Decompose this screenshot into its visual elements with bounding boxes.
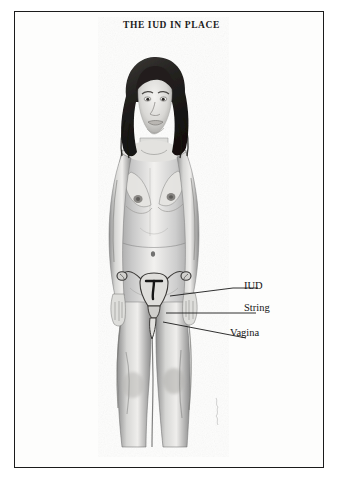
label-iud: IUD	[244, 281, 263, 292]
vaginal-canal	[150, 318, 156, 339]
label-string: String	[244, 303, 270, 314]
illustration-plate: THE IUD IN PLACE	[0, 0, 343, 500]
figure-drawing	[0, 0, 310, 457]
label-vagina: Vagina	[230, 328, 259, 339]
artist-signature	[216, 398, 218, 425]
